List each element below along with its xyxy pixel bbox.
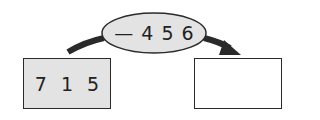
op-digit: 5 [161,22,173,44]
result-box[interactable] [194,58,282,109]
minus-sign: — [114,22,133,44]
op-digit: 6 [182,22,194,44]
start-digit: 1 [61,73,73,95]
result-value [195,59,281,108]
operation-label: — 4 5 6 [101,12,207,54]
start-number-box: 7 1 5 [23,58,111,109]
op-digit: 4 [141,22,153,44]
start-digit: 7 [35,73,47,95]
start-digit: 5 [87,73,99,95]
